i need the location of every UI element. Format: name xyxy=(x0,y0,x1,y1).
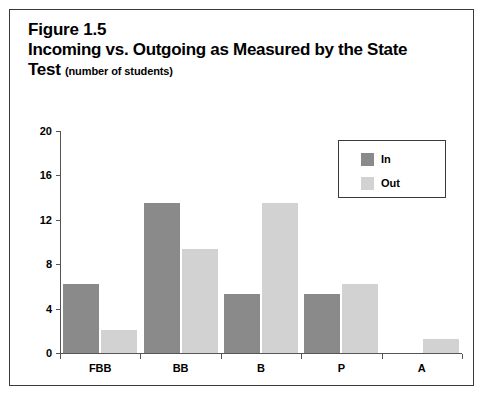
x-axis-tick-label-p: P xyxy=(338,362,345,374)
x-axis-tick-mark xyxy=(140,354,141,359)
x-axis-tick-label-b: B xyxy=(257,362,265,374)
y-axis-tick-label: 20 xyxy=(26,125,52,137)
legend-swatch-out xyxy=(361,177,374,190)
bar-bb-in xyxy=(144,203,180,353)
y-axis-tick-mark xyxy=(56,264,61,265)
bar-p-in xyxy=(304,294,340,353)
chart-legend: InOut xyxy=(338,140,446,198)
x-axis-line xyxy=(60,353,462,354)
legend-label-out: Out xyxy=(381,177,400,189)
y-axis-tick-mark xyxy=(56,175,61,176)
bar-fbb-out xyxy=(101,330,137,353)
x-axis-tick-label-bb: BB xyxy=(173,362,189,374)
x-axis-tick-mark xyxy=(221,354,222,359)
y-axis-tick-mark xyxy=(56,309,61,310)
bar-b-in xyxy=(224,294,260,353)
bar-a-out xyxy=(423,339,459,353)
legend-item-in: In xyxy=(361,149,445,169)
legend-swatch-in xyxy=(361,153,374,166)
x-axis-tick-mark xyxy=(301,354,302,359)
y-axis-line xyxy=(60,131,61,353)
y-axis-tick-mark xyxy=(56,220,61,221)
y-axis-tick-label: 16 xyxy=(26,169,52,181)
y-axis-tick-label: 12 xyxy=(26,214,52,226)
bar-bb-out xyxy=(182,249,218,353)
x-axis-tick-mark xyxy=(382,354,383,359)
y-axis-tick-label: 4 xyxy=(26,303,52,315)
bar-fbb-in xyxy=(63,284,99,353)
chart-plot-area: 048121620FBBBBBPA xyxy=(10,10,475,387)
x-axis-tick-mark xyxy=(462,354,463,359)
legend-label-in: In xyxy=(381,153,391,165)
bar-p-out xyxy=(342,284,378,353)
y-axis-tick-label: 8 xyxy=(26,258,52,270)
bar-b-out xyxy=(262,203,298,353)
x-axis-tick-label-a: A xyxy=(418,362,426,374)
x-axis-tick-label-fbb: FBB xyxy=(89,362,112,374)
y-axis-tick-mark xyxy=(56,131,61,132)
legend-item-out: Out xyxy=(361,173,445,193)
y-axis-tick-label: 0 xyxy=(26,347,52,359)
figure-frame: Figure 1.5 Incoming vs. Outgoing as Meas… xyxy=(9,9,474,386)
x-axis-tick-mark xyxy=(60,354,61,359)
